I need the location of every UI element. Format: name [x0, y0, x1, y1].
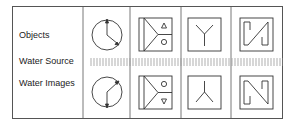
y-shape-icon	[188, 18, 221, 51]
mirror-diagram	[0, 0, 289, 126]
water-source-band	[90, 59, 283, 65]
n-shape-icon	[240, 18, 273, 51]
clock-hands-icon	[92, 19, 122, 50]
arrow-box-triangle-circle-icon	[139, 18, 172, 51]
inverted-y-shape-icon	[188, 76, 221, 109]
arrow-box-circle-triangle-icon	[139, 76, 172, 109]
clock-hands-reflected-icon	[92, 77, 122, 108]
n-shape-reflected-icon	[240, 76, 273, 109]
